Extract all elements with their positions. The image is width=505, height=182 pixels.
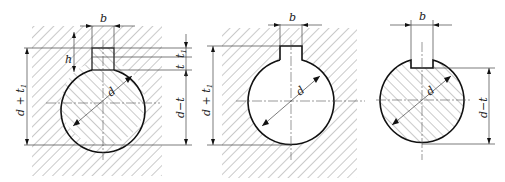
view-shaft: d b d−t <box>376 10 495 160</box>
b-label: b <box>419 10 426 23</box>
d-plus-t1-label: d + t1 <box>14 84 28 116</box>
d-plus-t1-label: d + t1 <box>200 84 214 116</box>
t-label: t <box>174 64 187 69</box>
h-label: h <box>65 53 72 66</box>
view-assembly: d b h t1 t d−t d + t1 <box>14 12 192 176</box>
t1-label: t1 <box>174 49 188 58</box>
keyway-drawing: d b h t1 t d−t d + t1 <box>0 0 505 182</box>
b-label: b <box>289 11 296 24</box>
view-hub: d b d + t1 <box>200 11 365 178</box>
b-label: b <box>100 12 107 25</box>
d-minus-t-label: d−t <box>174 97 187 118</box>
d-minus-t-label: d−t <box>477 97 490 118</box>
